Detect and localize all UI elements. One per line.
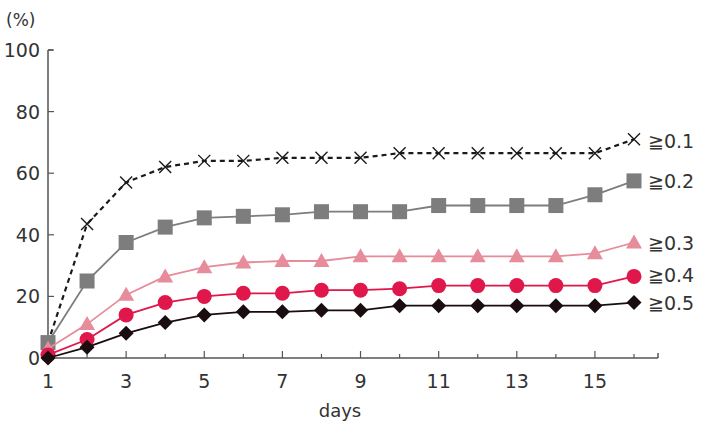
x-axis-title: days — [319, 400, 362, 421]
diamond-marker-icon — [275, 304, 290, 319]
square-marker-icon — [470, 198, 485, 213]
x-axis-ticks: 13579111315 — [42, 351, 634, 392]
y-axis-unit-label: (%) — [6, 10, 35, 30]
triangle-marker-icon — [353, 248, 369, 262]
diamond-marker-icon — [470, 298, 485, 313]
series-label: ≧0.3 — [648, 232, 694, 254]
y-tick-label: 40 — [16, 224, 40, 246]
square-marker-icon — [197, 210, 212, 225]
circle-marker-icon — [587, 278, 602, 293]
circle-marker-icon — [548, 278, 563, 293]
x-marker-icon — [315, 152, 327, 164]
triangle-marker-icon — [470, 248, 486, 262]
axes — [48, 50, 658, 358]
square-marker-icon — [587, 187, 602, 202]
square-marker-icon — [353, 204, 368, 219]
square-marker-icon — [392, 204, 407, 219]
x-tick-label: 15 — [583, 370, 607, 392]
square-marker-icon — [509, 198, 524, 213]
diamond-marker-icon — [627, 295, 642, 310]
square-marker-icon — [627, 173, 642, 188]
series-label: ≧0.5 — [648, 292, 694, 314]
y-axis-ticks: 020406080100 — [4, 39, 54, 369]
triangle-marker-icon — [79, 316, 95, 330]
series-triangle — [40, 235, 642, 355]
diamond-marker-icon — [158, 315, 173, 330]
square-marker-icon — [80, 274, 95, 289]
square-marker-icon — [431, 198, 446, 213]
triangle-marker-icon — [118, 287, 134, 301]
square-marker-icon — [158, 220, 173, 235]
series-label: ≧0.4 — [648, 264, 694, 286]
diamond-marker-icon — [197, 307, 212, 322]
series-label: ≧0.2 — [648, 170, 694, 192]
circle-marker-icon — [470, 278, 485, 293]
triangle-marker-icon — [509, 248, 525, 262]
y-tick-label: 100 — [4, 39, 40, 61]
circle-marker-icon — [353, 283, 368, 298]
y-tick-label: 0 — [28, 347, 40, 369]
series-diamond — [41, 295, 642, 365]
y-tick-label: 20 — [16, 285, 40, 307]
x-tick-label: 7 — [276, 370, 288, 392]
diamond-marker-icon — [353, 303, 368, 318]
circle-marker-icon — [509, 278, 524, 293]
x-marker-icon — [628, 133, 640, 145]
triangle-marker-icon — [431, 248, 447, 262]
square-marker-icon — [275, 207, 290, 222]
series-line — [48, 243, 634, 349]
circle-marker-icon — [158, 295, 173, 310]
circle-marker-icon — [197, 289, 212, 304]
triangle-marker-icon — [626, 235, 642, 249]
diamond-marker-icon — [548, 298, 563, 313]
x-tick-label: 5 — [198, 370, 210, 392]
series-line — [48, 181, 634, 343]
circle-marker-icon — [392, 281, 407, 296]
circle-marker-icon — [431, 278, 446, 293]
diamond-marker-icon — [509, 298, 524, 313]
triangle-marker-icon — [392, 248, 408, 262]
square-marker-icon — [548, 198, 563, 213]
x-tick-label: 13 — [505, 370, 529, 392]
diamond-marker-icon — [236, 304, 251, 319]
series-labels: ≧0.1≧0.2≧0.3≧0.4≧0.5 — [648, 130, 694, 314]
y-tick-label: 60 — [16, 162, 40, 184]
x-tick-label: 9 — [354, 370, 366, 392]
x-marker-icon — [433, 147, 445, 159]
circle-marker-icon — [314, 283, 329, 298]
diamond-marker-icon — [431, 298, 446, 313]
diamond-marker-icon — [587, 298, 602, 313]
square-marker-icon — [236, 209, 251, 224]
square-marker-icon — [314, 204, 329, 219]
circle-marker-icon — [119, 307, 134, 322]
triangle-marker-icon — [274, 253, 290, 267]
circle-marker-icon — [275, 286, 290, 301]
x-tick-label: 1 — [42, 370, 54, 392]
line-chart: (%) 020406080100 13579111315 ≧0.1≧0.2≧0.… — [0, 0, 704, 438]
circle-marker-icon — [236, 286, 251, 301]
x-marker-icon — [198, 155, 210, 167]
x-tick-label: 3 — [120, 370, 132, 392]
x-marker-icon — [120, 176, 132, 188]
diamond-marker-icon — [119, 326, 134, 341]
series-label: ≧0.1 — [648, 130, 694, 152]
circle-marker-icon — [627, 269, 642, 284]
square-marker-icon — [119, 235, 134, 250]
x-marker-icon — [81, 218, 93, 230]
x-marker-icon — [550, 147, 562, 159]
series-line — [48, 276, 634, 355]
diamond-marker-icon — [392, 298, 407, 313]
series-circle — [41, 269, 642, 363]
y-tick-label: 80 — [16, 101, 40, 123]
series-layer — [40, 133, 642, 365]
diamond-marker-icon — [314, 303, 329, 318]
x-tick-label: 11 — [427, 370, 451, 392]
